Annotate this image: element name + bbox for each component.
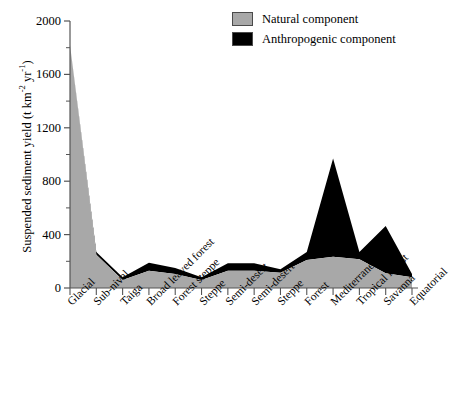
x-tick-label: Glacial <box>65 276 97 308</box>
x-tick-label: Equatorial <box>407 265 449 307</box>
x-tick-label: Forest <box>302 279 331 308</box>
